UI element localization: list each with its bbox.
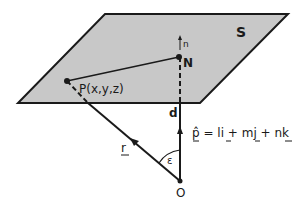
- point-o: [178, 179, 183, 184]
- normal-label: n: [183, 39, 189, 49]
- distance-label: d: [169, 106, 178, 120]
- p-point-label: P(x,y,z): [79, 82, 124, 96]
- r-label: r: [121, 141, 126, 155]
- vector-plane-diagram: S n N P(x,y,z) d r ε O p̂ = li + mj + nk: [0, 0, 301, 210]
- plane-label: S: [236, 24, 246, 40]
- angle-label: ε: [167, 155, 172, 166]
- n-point-label: N: [183, 56, 193, 70]
- equation-label: p̂ = li + mj + nk: [192, 126, 289, 140]
- origin-label: O: [176, 186, 185, 200]
- point-p: [64, 78, 70, 84]
- plane-s: [18, 14, 288, 103]
- p-arrowhead-icon: [177, 126, 183, 134]
- diagram-canvas: S n N P(x,y,z) d r ε O p̂ = li + mj + nk: [0, 0, 301, 210]
- point-n: [176, 54, 182, 60]
